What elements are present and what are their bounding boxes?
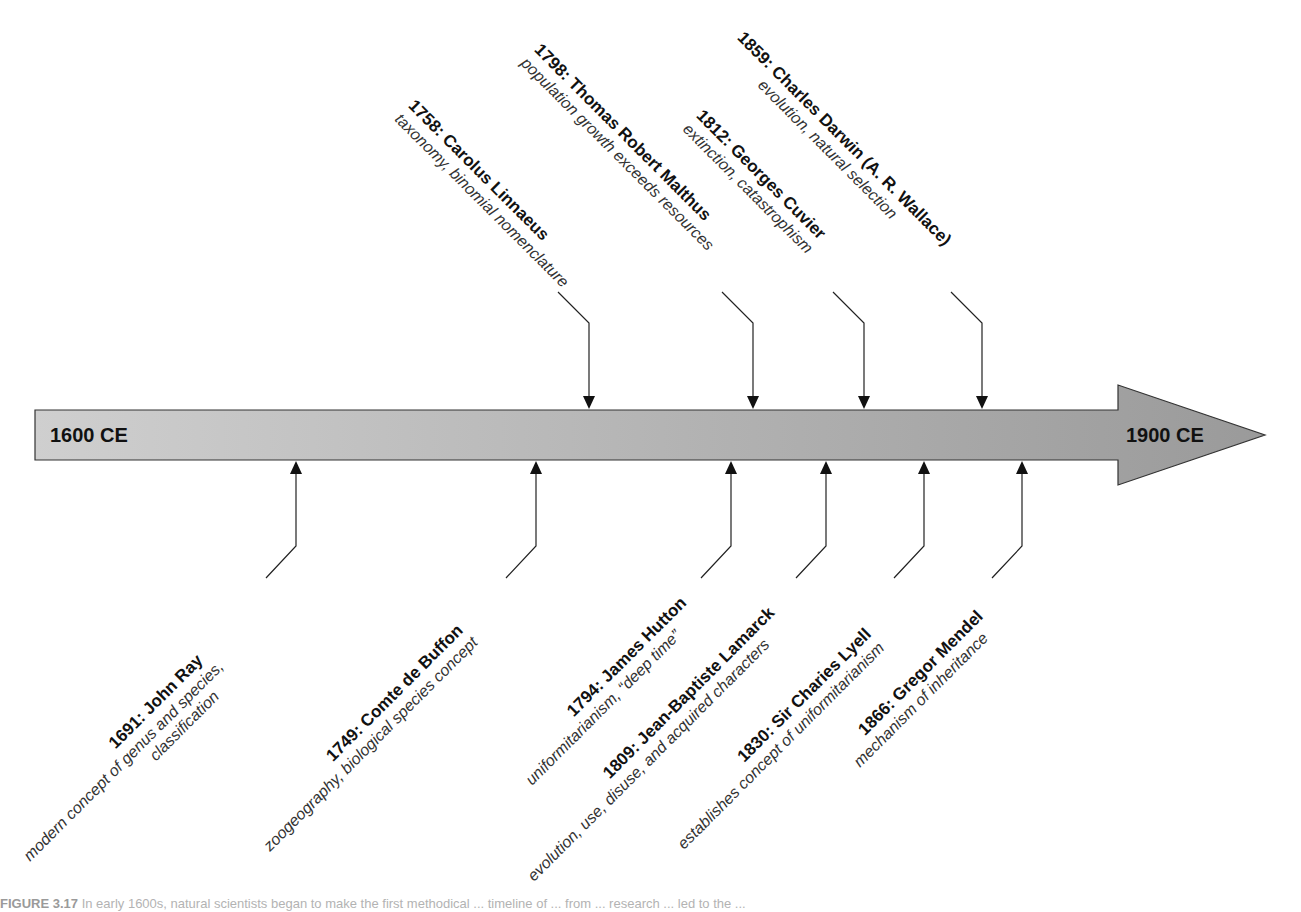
- timeline-arrow: [35, 385, 1265, 485]
- leaders-below: [266, 461, 1028, 578]
- leader-arrow-up: [506, 461, 542, 578]
- leader-arrow-down: [558, 292, 595, 409]
- leader-arrow-down: [951, 292, 988, 409]
- leader-arrow-down: [722, 292, 759, 409]
- figure-label: FIGURE 3.17: [0, 896, 78, 911]
- figure-caption-text: In early 1600s, natural scientists began…: [82, 896, 746, 911]
- leader-arrow-up: [796, 461, 832, 578]
- start-year-label: 1600 CE: [50, 424, 128, 447]
- leader-arrow-up: [266, 461, 302, 578]
- figure-caption: FIGURE 3.17 In early 1600s, natural scie…: [0, 896, 1301, 912]
- end-year-label: 1900 CE: [1126, 424, 1204, 447]
- leader-arrow-up: [992, 461, 1028, 578]
- leader-arrow-up: [701, 461, 737, 578]
- leader-arrow-up: [894, 461, 930, 578]
- leaders-above: [558, 292, 988, 409]
- leader-arrow-down: [833, 292, 870, 409]
- evolution-timeline-diagram: 1600 CE 1900 CE 1758: Carolus Linnaeus t…: [0, 0, 1301, 912]
